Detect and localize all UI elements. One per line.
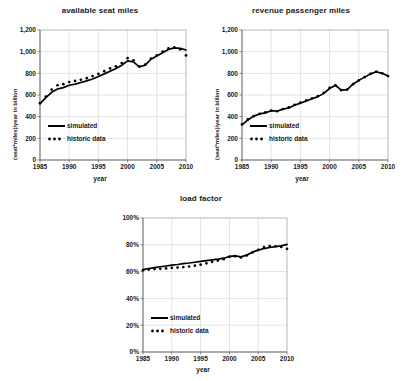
series-historic-data-asm: [39, 46, 188, 104]
chart-panel-load-factor: load factor year 0%20%40%60%80%100%19851…: [101, 190, 301, 381]
legend-swatch-historic: [250, 138, 253, 141]
y-tick-label-asm: 800: [25, 70, 36, 77]
legend-swatch-historic: [156, 330, 159, 333]
legend-asm: simulatedhistoric data: [48, 122, 106, 142]
y-tick-label-rpm: 400: [227, 113, 238, 120]
x-tick-label-lf: 1990: [165, 355, 180, 362]
legend-label-simulated: simulated: [67, 122, 97, 129]
legend-lf: simulatedhistoric data: [151, 314, 209, 334]
legend-swatch-historic: [58, 138, 61, 141]
x-tick-label-asm: 2005: [150, 163, 165, 170]
legend-swatch-historic: [48, 138, 51, 141]
x-tick-label-rpm: 2010: [381, 163, 396, 170]
series-simulated-lf: [143, 244, 287, 269]
x-tick-label-lf: 1985: [136, 355, 151, 362]
legend-rpm: simulatedhistoric data: [250, 122, 308, 142]
x-tick-label-lf: 2010: [280, 355, 295, 362]
legend-swatch-historic: [260, 138, 263, 141]
legend-swatch-historic: [53, 138, 56, 141]
legend-label-simulated: simulated: [170, 314, 200, 321]
x-tick-label-asm: 2000: [120, 163, 135, 170]
legend-swatch-historic: [151, 330, 154, 333]
plot-area-rpm: 02004006008001,0001,20019851990199520002…: [200, 0, 402, 190]
y-tick-label-rpm: 200: [227, 135, 238, 142]
x-tick-label-rpm: 1990: [264, 163, 279, 170]
legend-label-historic-data: historic data: [67, 135, 106, 142]
y-tick-label-asm: 600: [25, 91, 36, 98]
legend-label-historic-data: historic data: [170, 327, 209, 334]
y-tick-label-lf: 60%: [126, 268, 139, 275]
y-tick-label-rpm: 1,200: [222, 26, 239, 34]
y-tick-label-rpm: 600: [227, 91, 238, 98]
x-tick-label-rpm: 2005: [352, 163, 367, 170]
y-tick-label-rpm: 1,000: [222, 48, 239, 56]
x-tick-label-asm: 1995: [91, 163, 106, 170]
y-tick-label-asm: 400: [25, 113, 36, 120]
y-tick-label-rpm: 800: [227, 70, 238, 77]
x-tick-label-lf: 1995: [193, 355, 208, 362]
svg-rpm: 02004006008001,0001,20019851990199520002…: [200, 0, 402, 190]
chart-panel-revenue-passenger-miles: revenue passenger miles (seat*miles)/yea…: [200, 0, 402, 190]
x-tick-label-rpm: 1985: [235, 163, 250, 170]
y-tick-label-lf: 20%: [126, 322, 139, 329]
x-tick-label-rpm: 1995: [293, 163, 308, 170]
y-tick-label-asm: 1,000: [20, 48, 37, 56]
series-simulated-asm: [40, 48, 186, 104]
x-tick-label-asm: 2010: [179, 163, 194, 170]
plot-area-lf: 0%20%40%60%80%100%1985199019952000200520…: [101, 190, 301, 381]
x-tick-label-asm: 1985: [33, 163, 48, 170]
y-tick-label-asm: 200: [25, 135, 36, 142]
svg-lf: 0%20%40%60%80%100%1985199019952000200520…: [101, 190, 301, 381]
chart-panel-available-seat-miles: available seat miles (seat*miles)/year i…: [0, 0, 200, 190]
x-tick-label-rpm: 2000: [322, 163, 337, 170]
x-tick-label-asm: 1990: [62, 163, 77, 170]
legend-swatch-historic: [255, 138, 258, 141]
y-tick-label-lf: 40%: [126, 295, 139, 302]
legend-label-simulated: simulated: [269, 122, 299, 129]
svg-asm: 02004006008001,0001,20019851990199520002…: [0, 0, 200, 190]
x-tick-label-lf: 2000: [222, 355, 237, 362]
y-tick-label-asm: 1,200: [20, 26, 37, 34]
y-tick-label-lf: 80%: [126, 241, 139, 248]
legend-label-historic-data: historic data: [269, 135, 308, 142]
plot-area-asm: 02004006008001,0001,20019851990199520002…: [0, 0, 200, 190]
y-tick-label-lf: 100%: [122, 214, 139, 221]
x-tick-label-lf: 2005: [251, 355, 266, 362]
legend-swatch-historic: [161, 330, 164, 333]
